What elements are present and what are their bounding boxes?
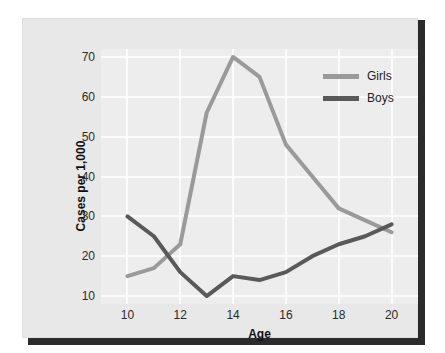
y-axis-tick-labels: 10203040506070 [63,49,95,304]
legend-item-girls[interactable]: Girls [323,67,433,85]
legend-label: Girls [367,70,392,82]
y-axis-tick-label: 40 [82,171,95,183]
y-axis-tick-label: 10 [82,290,95,302]
x-axis-tick-label: 14 [226,309,239,321]
legend-swatch-icon [323,74,359,79]
y-axis-tick-label: 50 [82,131,95,143]
y-axis-tick-label: 70 [82,51,95,63]
x-axis-tick-label: 20 [385,309,398,321]
series-line-boys [127,216,391,296]
y-axis-tick-label: 20 [82,250,95,262]
legend-item-boys[interactable]: Boys [323,89,433,107]
chart-figure: Cases per 1,000 10203040506070 101214161… [0,0,445,353]
x-axis-tick-label: 12 [174,309,187,321]
x-axis-tick-label: 18 [332,309,345,321]
legend-swatch-icon [323,96,359,101]
x-axis-tick-labels: 101214161820 [101,309,418,325]
x-axis-tick-label: 16 [279,309,292,321]
y-axis-tick-label: 60 [82,91,95,103]
chart-card: Cases per 1,000 10203040506070 101214161… [22,18,418,338]
legend-label: Boys [367,92,394,104]
x-axis-tick-label: 10 [121,309,134,321]
x-axis-title: Age [101,327,418,341]
chart-legend: GirlsBoys [323,67,433,111]
y-axis-tick-label: 30 [82,210,95,222]
